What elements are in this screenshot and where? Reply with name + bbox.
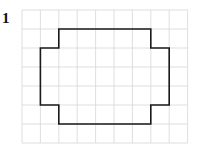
cross-shaped-polygon bbox=[40, 29, 169, 124]
grid-lines bbox=[22, 10, 188, 143]
grid-figure bbox=[0, 0, 204, 152]
